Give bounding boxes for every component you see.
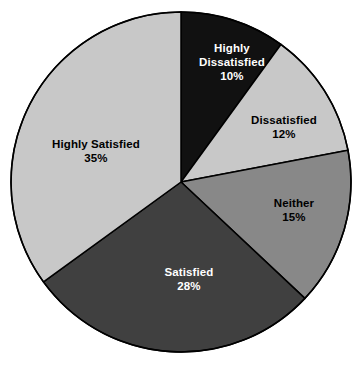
pie-chart: HighlyDissatisfied10%Dissatisfied12%Neit… [0,0,363,368]
pie-chart-canvas [0,0,363,368]
